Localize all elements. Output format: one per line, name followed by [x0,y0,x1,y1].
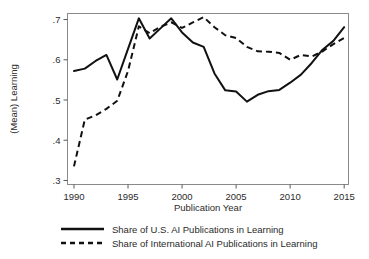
series-line-us [74,18,344,101]
plot-frame [68,14,349,185]
chart-legend: Share of U.S. AI Publications in Learnin… [61,224,317,249]
y-tick-label: .6 [53,54,61,65]
y-tick-label: .5 [53,95,61,106]
y-axis-title: (Mean) Learning [8,64,19,134]
x-axis-title: Publication Year [174,202,242,213]
x-axis: 199019952000200520102015 [63,185,354,202]
x-tick-label: 2010 [280,191,301,202]
line-chart: .3.4.5.6.7 199019952000200520102015 (Mea… [0,0,369,259]
x-tick-label: 2000 [171,191,192,202]
y-axis: .3.4.5.6.7 [53,14,68,186]
x-tick-label: 1995 [117,191,138,202]
legend-label-us: Share of U.S. AI Publications in Learnin… [112,224,284,235]
chart-figure: .3.4.5.6.7 199019952000200520102015 (Mea… [0,0,369,259]
x-tick-label: 2005 [226,191,247,202]
x-tick-label: 1990 [63,191,84,202]
y-tick-label: .4 [53,135,61,146]
series-line-international [74,17,344,166]
x-tick-label: 2015 [334,191,355,202]
legend-label-international: Share of International AI Publications i… [112,238,317,249]
y-tick-label: .7 [53,14,61,25]
y-tick-label: .3 [53,175,61,186]
